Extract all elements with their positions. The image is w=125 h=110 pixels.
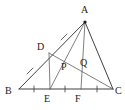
- point-label-E: E: [44, 94, 50, 104]
- segment-DE: [49, 53, 50, 89]
- point-label-P: P: [61, 62, 67, 72]
- vertex-dot-A: [83, 20, 86, 23]
- segment-AE: [50, 22, 85, 89]
- tick-DA-icon: [61, 34, 67, 40]
- point-label-Q: Q: [80, 58, 87, 68]
- point-label-B: B: [5, 86, 12, 96]
- segment-AF: [81, 22, 85, 89]
- geometry-canvas: [0, 0, 125, 110]
- geometry-figure: A D P Q B E F C: [0, 0, 125, 110]
- point-label-D: D: [37, 42, 44, 52]
- segment-AC: [85, 22, 113, 89]
- tick-BD-icon: [27, 68, 33, 74]
- point-label-F: F: [75, 94, 81, 104]
- point-label-C: C: [115, 86, 122, 96]
- segment-BA: [19, 22, 85, 89]
- point-label-A: A: [81, 5, 88, 15]
